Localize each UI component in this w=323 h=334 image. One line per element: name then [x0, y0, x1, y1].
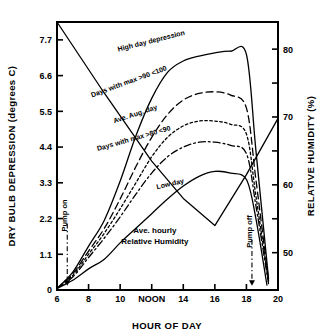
x-tick-label: 10 [115, 294, 125, 304]
x-tick-label: 6 [54, 294, 59, 304]
y-tick-label: 7.7 [39, 35, 52, 45]
annotation-pump-on: Pump on [60, 199, 69, 231]
dry-bulb-depression-chart: 01.12.23.34.45.56.67.7 50607080 6810NOON… [0, 0, 323, 334]
y-tick-label: 0 [47, 285, 52, 295]
x-axis-title: HOUR OF DAY [132, 320, 202, 331]
y2-tick-label: 70 [283, 112, 293, 122]
x-tick-label: 20 [273, 294, 283, 304]
x-tick-label: NOON [138, 294, 165, 304]
y-tick-label: 5.5 [39, 107, 52, 117]
y-tick-label: 6.6 [39, 71, 52, 81]
y2-tick-label: 60 [283, 180, 293, 190]
chart-figure: 01.12.23.34.45.56.67.7 50607080 6810NOON… [0, 0, 323, 334]
y-tick-label: 3.3 [39, 178, 52, 188]
y2-axis-title: RELATIVE HUMIDITY (%) [305, 96, 316, 216]
x-tick-label: 14 [178, 294, 188, 304]
y-tick-label: 1.1 [39, 250, 52, 260]
x-tick-label: 8 [86, 294, 91, 304]
x-tick-label: 16 [210, 294, 220, 304]
chart-background [0, 0, 323, 334]
annotation-relative-humidity: Relative Humidity [121, 237, 189, 246]
annotation-pump-off: Pump off [245, 215, 254, 248]
x-tick-label: 18 [241, 294, 251, 304]
y-axis-title: DRY BULB DEPRESSION (degrees C) [6, 66, 17, 247]
y-tick-label: 2.2 [39, 214, 52, 224]
y2-tick-label: 50 [283, 248, 293, 258]
y2-tick-label: 80 [283, 45, 293, 55]
annotation-ave-hourly: Ave. hourly [133, 226, 177, 235]
y-tick-label: 4.4 [39, 142, 52, 152]
